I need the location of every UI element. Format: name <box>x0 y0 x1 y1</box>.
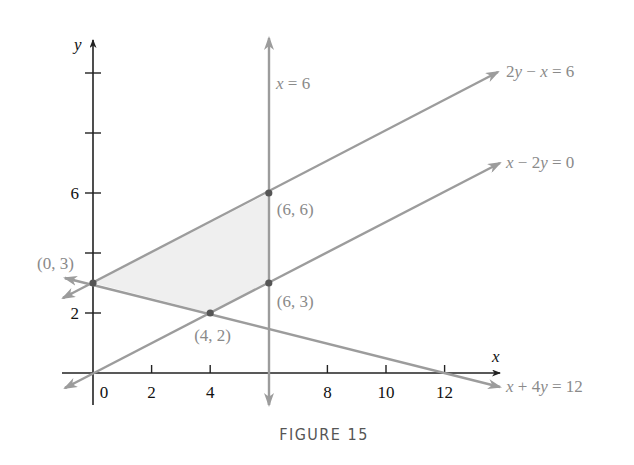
corner-point <box>265 189 272 196</box>
corner-point <box>265 279 272 286</box>
y-tick-label: 2 <box>71 304 80 323</box>
x-tick-label: 8 <box>323 383 332 402</box>
x-ticks: 02481012 <box>100 365 453 402</box>
y-tick-label: 6 <box>71 184 80 203</box>
x-axis-label: x <box>491 347 500 366</box>
x-tick-label: 12 <box>436 383 453 402</box>
corner-point <box>207 309 214 316</box>
constraint-label: x − 2y = 0 <box>505 153 574 172</box>
arrow-head-icon <box>65 383 74 388</box>
x-tick-label: 0 <box>100 383 109 402</box>
figure-15-chart: 02481012 26 x y x = 62y − x = 6x − 2y = … <box>0 0 634 465</box>
y-axis-label: y <box>72 35 82 54</box>
arrow-head-icon <box>63 293 72 298</box>
x-tick-label: 10 <box>378 383 395 402</box>
corner-point <box>89 279 96 286</box>
constraint-lines: x = 62y − x = 6x − 2y = 0x + 4y = 12 <box>63 38 583 405</box>
corner-point-label: (4, 2) <box>194 326 231 345</box>
constraint-label: x + 4y = 12 <box>505 377 583 396</box>
figure-caption: FIGURE 15 <box>279 425 369 444</box>
x-tick-label: 4 <box>206 383 215 402</box>
constraint-label: 2y − x = 6 <box>506 62 574 81</box>
corner-point-label: (6, 3) <box>277 292 314 311</box>
corner-point-label: (6, 6) <box>277 200 314 219</box>
constraint-label: x = 6 <box>275 74 310 93</box>
corner-point-label: (0, 3) <box>37 254 74 273</box>
arrow-head-icon <box>65 278 75 280</box>
x-tick-label: 2 <box>147 383 156 402</box>
constraint-line <box>63 72 498 298</box>
